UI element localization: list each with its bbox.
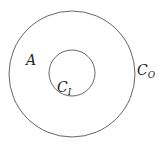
inner-circle [49, 50, 95, 96]
inner-circle-label: CI [57, 79, 72, 97]
region-label-a: A [24, 52, 36, 68]
outer-circle-label: CO [137, 62, 156, 80]
inner-label-sub: I [67, 87, 72, 97]
outer-label-main: C [137, 62, 148, 78]
annulus-diagram: A CI CO [0, 0, 162, 144]
outer-circle [9, 11, 135, 137]
outer-label-sub: O [148, 70, 156, 80]
inner-label-main: C [57, 79, 68, 95]
